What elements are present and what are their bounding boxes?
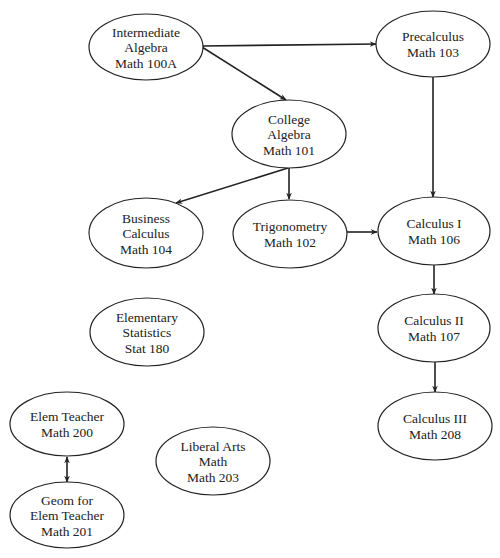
node-math201: Geom forElem TeacherMath 201	[10, 482, 124, 548]
node-label-line: Algebra	[267, 127, 310, 142]
node-label-line: Elem Teacher	[30, 508, 105, 523]
node-label-line: Math	[199, 454, 228, 469]
node-label-line: Math 200	[41, 425, 93, 440]
node-label-line: Math 201	[41, 524, 93, 539]
node-label-line: Math 208	[409, 427, 461, 442]
node-label-line: Calculus II	[404, 313, 464, 328]
node-math203: Liberal ArtsMathMath 203	[156, 427, 270, 495]
node-math102: TrigonometryMath 102	[233, 200, 347, 268]
node-math208: Calculus IIIMath 208	[378, 392, 492, 460]
node-math101: CollegeAlgebraMath 101	[232, 100, 346, 168]
node-math103: PrecalculusMath 103	[376, 11, 490, 77]
node-label-line: Intermediate	[112, 25, 180, 40]
node-label-line: Math 107	[408, 329, 460, 344]
node-math200: Elem TeacherMath 200	[10, 392, 124, 456]
node-label-line: Algebra	[124, 40, 167, 55]
edge-math100a-to-math101-arrow	[202, 47, 286, 100]
node-label-line: Math 104	[120, 242, 172, 257]
edge-math101-to-math104-arrow	[176, 168, 288, 203]
node-stat180: ElementaryStatisticsStat 180	[90, 298, 204, 366]
node-label-line: Math 101	[263, 143, 315, 158]
node-label-line: Statistics	[123, 325, 172, 340]
node-label-line: Calculus	[122, 226, 169, 241]
prerequisite-diagram: IntermediateAlgebraMath 100APrecalculusM…	[0, 0, 500, 558]
node-label-line: Math 203	[187, 470, 239, 485]
node-label-line: Business	[122, 211, 170, 226]
node-label-line: Calculus I	[406, 216, 462, 231]
node-math100a: IntermediateAlgebraMath 100A	[89, 14, 203, 80]
node-label-line: Math 102	[264, 235, 316, 250]
node-label-line: Trigonometry	[253, 219, 328, 234]
diagram-canvas: IntermediateAlgebraMath 100APrecalculusM…	[0, 0, 500, 558]
node-label-line: Math 103	[407, 45, 459, 60]
node-label-line: Liberal Arts	[181, 439, 246, 454]
node-label-line: Elementary	[116, 310, 178, 325]
node-label-line: Math 100A	[115, 56, 177, 71]
node-math106: Calculus IMath 106	[378, 197, 490, 265]
node-label-line: Calculus III	[403, 411, 468, 426]
node-label-line: Geom for	[41, 493, 94, 508]
node-label-line: Elem Teacher	[30, 409, 105, 424]
node-label-line: College	[268, 112, 310, 127]
node-math104: BusinessCalculusMath 104	[89, 198, 203, 268]
nodes-layer: IntermediateAlgebraMath 100APrecalculusM…	[10, 11, 492, 548]
node-label-line: Precalculus	[402, 29, 464, 44]
node-label-line: Stat 180	[125, 341, 170, 356]
node-math107: Calculus IIMath 107	[378, 294, 490, 362]
edge-math100a-to-math103-arrow	[202, 44, 376, 46]
node-label-line: Math 106	[408, 232, 460, 247]
